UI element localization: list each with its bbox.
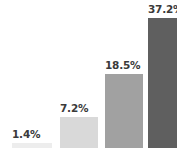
bar-rect — [12, 143, 52, 148]
bar-rect — [105, 74, 143, 148]
bar-chart: 1.4% 7.2% 18.5% 37.2% — [0, 0, 177, 148]
bar-group: 37.2% — [148, 0, 177, 148]
bar-group: 7.2% — [60, 0, 98, 148]
bar-rect — [60, 117, 98, 148]
bar-value-label: 7.2% — [60, 103, 88, 114]
bar-group: 1.4% — [12, 0, 52, 148]
bar-group: 18.5% — [105, 0, 143, 148]
bar-rect — [148, 18, 177, 148]
bar-value-label: 1.4% — [12, 129, 40, 140]
bar-value-label: 37.2% — [148, 4, 177, 15]
bar-value-label: 18.5% — [105, 60, 140, 71]
